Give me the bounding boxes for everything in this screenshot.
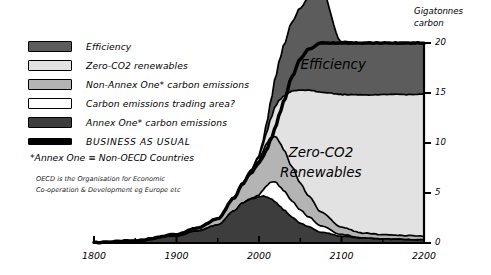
plot-annotation: Renewables (280, 164, 362, 180)
x-axis-tick-label: 1800 (78, 250, 110, 261)
chart-plot-area: EfficiencyZero-CO2Renewables (0, 0, 491, 275)
x-axis-tick-label: 2000 (243, 250, 275, 261)
y-axis-tick-label: 15 (435, 87, 446, 97)
y-axis-tick-label: 10 (435, 137, 446, 147)
y-axis-tick-label: 20 (435, 37, 446, 47)
plot-annotation: Efficiency (301, 56, 367, 72)
x-axis-tick-label: 2200 (408, 250, 440, 261)
x-axis-tick-label: 1900 (161, 250, 193, 261)
y-axis-tick-label: 0 (435, 237, 440, 247)
y-axis-tick-label: 5 (435, 187, 440, 197)
x-axis-tick-label: 2100 (326, 250, 358, 261)
plot-annotation: Zero-CO2 (287, 144, 353, 160)
